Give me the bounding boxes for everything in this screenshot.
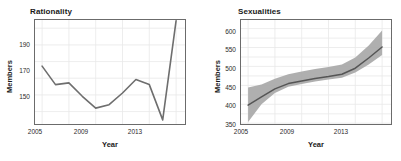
y-tick-170-rationality: 170 <box>12 67 30 74</box>
chart-sexualities: Sexualities Members 600 550 500 450 400 … <box>200 0 400 161</box>
plot-area-rationality <box>34 19 186 125</box>
x-tick-2009-sexualities: 2009 <box>267 128 307 135</box>
y-tick-500-sexualities: 500 <box>218 65 236 72</box>
plot-area-sexualities <box>240 19 392 125</box>
panel-border-rationality <box>35 20 186 125</box>
x-tick-2009-rationality: 2009 <box>61 128 101 135</box>
y-axis-title-rationality: Members <box>5 55 14 99</box>
y-tick-400-sexualities: 400 <box>218 102 236 109</box>
x-axis-title-rationality: Year <box>34 140 186 149</box>
y-tick-350-sexualities: 350 <box>218 121 236 128</box>
x-tick-2013-sexualities: 2013 <box>321 128 361 135</box>
y-tick-190-rationality: 190 <box>12 41 30 48</box>
y-tick-550-sexualities: 550 <box>218 46 236 53</box>
y-tick-150-rationality: 150 <box>12 93 30 100</box>
y-tick-450-sexualities: 450 <box>218 84 236 91</box>
x-tick-2005-sexualities: 2005 <box>206 128 276 135</box>
x-axis-title-sexualities: Year <box>240 140 392 149</box>
x-tick-2005-rationality: 2005 <box>0 128 70 135</box>
chart-title-rationality: Rationality <box>30 7 72 16</box>
y-axis-title-sexualities: Members <box>213 55 222 99</box>
y-tick-600-sexualities: 600 <box>218 28 236 35</box>
chart-title-sexualities: Sexualities <box>238 7 281 16</box>
chart-rationality: Rationality Members 190 170 150 <box>0 0 200 161</box>
x-tick-2013-rationality: 2013 <box>115 128 155 135</box>
figure-panel-group: Rationality Members 190 170 150 <box>0 0 401 161</box>
